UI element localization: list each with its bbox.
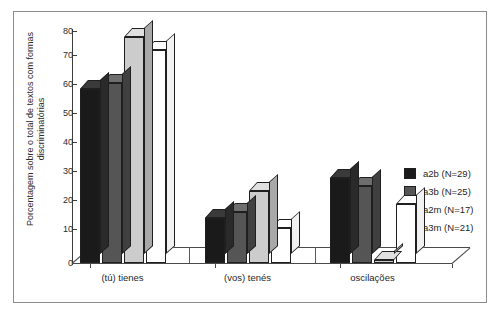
bar-front-face bbox=[330, 178, 350, 263]
y-tick-80: 80 bbox=[48, 27, 73, 36]
y-tick-50: 50 bbox=[48, 109, 73, 118]
y-tick-mark-80 bbox=[73, 31, 77, 32]
y-tick-0: 0 bbox=[48, 259, 73, 268]
y-tick-label-40: 40 bbox=[53, 138, 73, 147]
x-axis-label-2: oscilações bbox=[325, 272, 420, 283]
y-tick-mark-70 bbox=[73, 55, 77, 56]
y-tick-label-50: 50 bbox=[53, 109, 73, 118]
floor-right-edge bbox=[452, 247, 471, 264]
chart-figure: Porcentagem sobre o total de textos com … bbox=[0, 0, 500, 314]
y-tick-30: 30 bbox=[48, 167, 73, 176]
bar-g1-a2b bbox=[205, 218, 225, 263]
bar-g2-a2b bbox=[330, 178, 350, 263]
y-tick-mark-20 bbox=[73, 200, 77, 201]
legend-swatch-a2b bbox=[404, 168, 416, 179]
y-tick-label-10: 10 bbox=[53, 225, 73, 234]
y-tick-mark-40 bbox=[73, 142, 77, 143]
bar-side-face bbox=[416, 187, 425, 254]
bar-side-face bbox=[144, 20, 153, 254]
x-tick-1 bbox=[215, 264, 216, 268]
bar-side-face bbox=[372, 169, 381, 254]
legend-label-a2m: a2m (N=17) bbox=[423, 204, 473, 215]
bar-front-face bbox=[374, 260, 394, 263]
bar-side-face bbox=[350, 161, 359, 254]
y-tick-20: 20 bbox=[48, 196, 73, 205]
bar-side-face bbox=[247, 195, 256, 254]
x-tick-2 bbox=[340, 264, 341, 268]
bar-g0-a2b bbox=[80, 89, 100, 263]
x-tick-0 bbox=[90, 264, 91, 268]
bar-side-face bbox=[225, 201, 234, 254]
y-tick-label-0: 0 bbox=[53, 259, 73, 268]
y-tick-10: 10 bbox=[48, 225, 73, 234]
y-tick-40: 40 bbox=[48, 138, 73, 147]
y-tick-mark-30 bbox=[73, 171, 77, 172]
legend-label-a3m: a3m (N=21) bbox=[423, 222, 473, 233]
bar-g2-a2m bbox=[374, 260, 394, 263]
y-tick-label-60: 60 bbox=[53, 80, 73, 89]
x-axis-label-1: (vos) tenés bbox=[200, 272, 295, 283]
group-separator-1 bbox=[189, 247, 190, 263]
y-tick-60: 60 bbox=[48, 80, 73, 89]
bar-side-face bbox=[166, 33, 175, 254]
y-tick-mark-50 bbox=[73, 113, 77, 114]
y-tick-label-20: 20 bbox=[53, 196, 73, 205]
bar-side-face bbox=[122, 66, 131, 254]
y-tick-mark-10 bbox=[73, 229, 77, 230]
y-axis-label: Porcentagem sobre o total de textos com … bbox=[25, 29, 47, 229]
group-separator-2 bbox=[315, 247, 316, 263]
legend-item-a2b: a2b (N=29) bbox=[404, 164, 473, 182]
y-tick-label-70: 70 bbox=[53, 51, 73, 60]
y-tick-70: 70 bbox=[48, 51, 73, 60]
plot-area: Porcentagem sobre o total de textos com … bbox=[0, 0, 500, 314]
y-tick-label-30: 30 bbox=[53, 167, 73, 176]
floor-front-edge bbox=[72, 263, 452, 264]
y-tick-label-80: 80 bbox=[53, 27, 73, 36]
bar-side-face bbox=[100, 72, 109, 254]
y-tick-mark-60 bbox=[73, 84, 77, 85]
x-tick-3 bbox=[452, 264, 453, 268]
x-axis-label-0: (tú) tienes bbox=[75, 272, 170, 283]
legend-label-a2b: a2b (N=29) bbox=[423, 168, 471, 179]
bar-front-face bbox=[205, 218, 225, 263]
legend-label-a3b: a3b (N=25) bbox=[423, 186, 471, 197]
bar-side-face bbox=[269, 174, 278, 254]
bar-front-face bbox=[80, 89, 100, 263]
